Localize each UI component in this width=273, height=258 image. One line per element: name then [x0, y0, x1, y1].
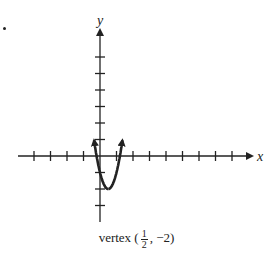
caption-prefix: vertex (: [99, 230, 139, 245]
x-axis-label: x: [256, 149, 264, 164]
parabola-right-branch: [109, 140, 123, 189]
fraction-one-half: 12: [141, 229, 148, 250]
parabola-curve: [94, 140, 122, 189]
fraction-denominator: 2: [141, 240, 148, 250]
caption-suffix: , −2): [150, 230, 175, 245]
tick-marks: [34, 57, 232, 206]
vertex-caption: vertex (12, −2): [0, 229, 273, 250]
coordinate-plane: x y: [0, 0, 273, 228]
axes: [18, 30, 252, 222]
parabola-left-branch: [94, 140, 109, 189]
y-axis-label: y: [95, 13, 104, 28]
